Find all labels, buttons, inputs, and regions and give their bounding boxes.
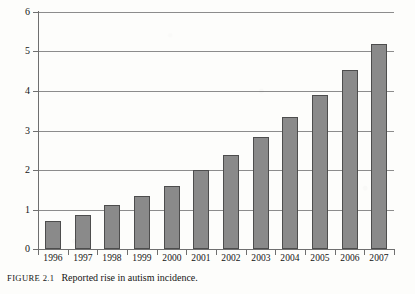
- x-axis-tick: [305, 250, 306, 255]
- x-axis-label: 2004: [275, 253, 305, 264]
- bar: [104, 205, 120, 249]
- x-axis-label: 2006: [335, 253, 365, 264]
- x-axis-tick: [157, 250, 158, 255]
- figure-caption-text: Reported rise in autism incidence.: [61, 272, 197, 283]
- x-axis-label: 2001: [186, 253, 216, 264]
- figure-root: 0123456 19961997199819992000200120022003…: [0, 0, 415, 294]
- x-axis-label: 1996: [38, 253, 68, 264]
- y-axis-label: 3: [8, 126, 30, 136]
- x-axis-label: 2005: [305, 253, 335, 264]
- x-axis-label: 1999: [127, 253, 157, 264]
- bar: [371, 44, 387, 249]
- y-axis-label: 0: [8, 244, 30, 254]
- bar: [223, 155, 239, 249]
- y-axis-label: 2: [8, 165, 30, 175]
- x-axis-label: 2003: [246, 253, 276, 264]
- bar: [164, 186, 180, 249]
- plot-area: [38, 12, 394, 249]
- x-axis-tick: [127, 250, 128, 255]
- x-axis-tick: [394, 250, 395, 255]
- y-axis-label: 6: [8, 7, 30, 17]
- x-axis-label: 1997: [68, 253, 98, 264]
- y-axis-label: 4: [8, 86, 30, 96]
- x-axis-label: 2007: [364, 253, 394, 264]
- bar: [342, 70, 358, 249]
- x-axis-tick: [38, 250, 39, 255]
- figure-number: FIGURE 2.1: [7, 273, 54, 283]
- bar: [253, 137, 269, 249]
- x-axis-tick: [68, 250, 69, 255]
- x-axis-tick: [275, 250, 276, 255]
- figure-caption: FIGURE 2.1Reported rise in autism incide…: [7, 272, 407, 284]
- x-axis-label: 1998: [97, 253, 127, 264]
- x-axis-tick: [364, 250, 365, 255]
- x-axis-tick: [97, 250, 98, 255]
- y-axis-label: 1: [8, 205, 30, 215]
- bar-chart: 0123456 19961997199819992000200120022003…: [0, 0, 415, 262]
- x-axis-tick: [216, 250, 217, 255]
- x-axis-tick: [186, 250, 187, 255]
- bar: [312, 95, 328, 249]
- bar: [75, 215, 91, 249]
- x-axis-label: 2000: [157, 253, 187, 264]
- bar: [134, 196, 150, 249]
- bar: [193, 170, 209, 249]
- x-axis-tick: [246, 250, 247, 255]
- y-axis-label: 5: [8, 46, 30, 56]
- bar: [45, 221, 61, 249]
- x-axis-tick: [335, 250, 336, 255]
- x-axis-label: 2002: [216, 253, 246, 264]
- bar: [282, 117, 298, 249]
